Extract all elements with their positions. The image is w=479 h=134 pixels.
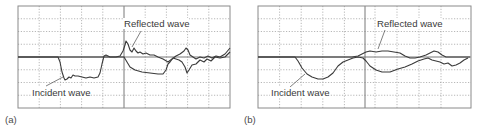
panel-a-label: (a) <box>5 114 17 125</box>
panel-b-reflected-leader <box>378 30 385 49</box>
panel-b-label: (b) <box>244 114 256 125</box>
panel-b-reflected-label: Reflected wave <box>377 18 443 29</box>
panel-a-incident-label: Incident wave <box>32 87 91 98</box>
panel-b-incident-leader <box>290 74 305 87</box>
panel-a-reflected-label: Reflected wave <box>124 18 190 29</box>
panel-b: Reflected wave Incident wave (b) <box>244 6 471 125</box>
panel-a: Reflected wave Incident wave (a) <box>5 6 230 125</box>
oscilloscope-figure: Reflected wave Incident wave (a) <box>0 0 479 134</box>
panel-b-incident-trace <box>258 57 468 79</box>
panel-b-incident-label: Incident wave <box>271 87 330 98</box>
